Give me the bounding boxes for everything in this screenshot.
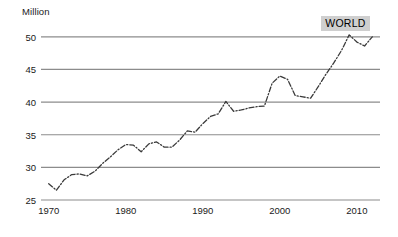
x-tick-1970: 1970 [38,205,59,216]
series-annotation-world: WORLD [321,16,370,31]
x-axis-tick-labels: 19701980199020002010 [0,0,398,237]
x-tick-1980: 1980 [115,205,136,216]
x-tick-1990: 1990 [192,205,213,216]
chart-container: Million 253035404550 1970198019902000201… [0,0,398,237]
x-tick-2010: 2010 [346,205,367,216]
x-tick-2000: 2000 [269,205,290,216]
